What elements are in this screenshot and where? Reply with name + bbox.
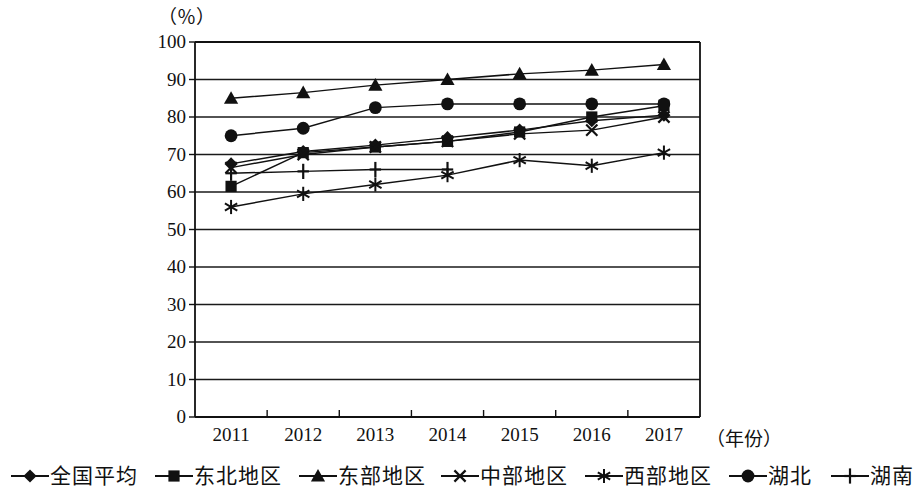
legend-marker-square-icon <box>154 466 194 486</box>
legend-label: 西部地区 <box>624 466 712 487</box>
x-axis-tick-2011: 2011 <box>196 425 266 444</box>
data-point-circle <box>742 470 755 483</box>
chart-canvas <box>0 0 907 455</box>
x-axis-tick-2015: 2015 <box>485 425 555 444</box>
x-axis-title: （年份） <box>706 424 782 451</box>
data-point-circle <box>513 97 526 110</box>
legend-label: 东北地区 <box>194 466 282 487</box>
legend-label: 全国平均 <box>50 466 138 487</box>
legend-item-7[interactable]: 湖南 <box>830 466 914 487</box>
x-axis-tick-2017: 2017 <box>629 425 699 444</box>
legend-marker-triangle-icon <box>298 466 338 486</box>
x-axis-tick-2013: 2013 <box>340 425 410 444</box>
legend-label: 中部地区 <box>480 466 568 487</box>
y-axis-tick-20: 20 <box>140 332 186 351</box>
data-point-square <box>298 147 309 158</box>
legend-item-1[interactable]: 全国平均 <box>10 466 138 487</box>
data-point-plus <box>298 164 309 179</box>
series-5 <box>225 146 670 215</box>
legend-marker-asterisk-icon <box>584 466 624 486</box>
y-axis-tick-80: 80 <box>140 107 186 126</box>
data-point-asterisk <box>658 146 670 160</box>
y-axis-tick-0: 0 <box>140 407 186 426</box>
x-axis-tick-2012: 2012 <box>268 425 338 444</box>
legend-marker-plus-icon <box>830 466 870 486</box>
data-point-triangle <box>657 57 671 70</box>
y-axis-tick-50: 50 <box>140 220 186 239</box>
y-axis-tick-30: 30 <box>140 295 186 314</box>
series-7 <box>225 162 453 181</box>
y-axis-tick-100: 100 <box>140 32 186 51</box>
data-point-asterisk <box>225 200 237 214</box>
legend-marker-circle-icon <box>728 466 768 486</box>
x-axis-tick-2016: 2016 <box>557 425 627 444</box>
x-axis-tick-2014: 2014 <box>413 425 483 444</box>
series-3 <box>224 57 671 103</box>
gridlines <box>195 42 700 380</box>
data-point-circle <box>658 97 671 110</box>
legend-label: 湖南 <box>870 466 914 487</box>
legend-item-2[interactable]: 东北地区 <box>154 466 282 487</box>
chart-plot-area: （％） 0102030405060708090100 2011201220132… <box>0 0 907 455</box>
data-point-plus <box>844 468 855 483</box>
data-point-square <box>168 470 179 481</box>
legend-item-6[interactable]: 湖北 <box>728 466 812 487</box>
data-point-diamond <box>23 469 36 482</box>
legend-marker-diamond-icon <box>10 466 50 486</box>
chart-legend: 全国平均东北地区东部地区中部地区西部地区湖北湖南 <box>0 458 907 494</box>
data-point-circle <box>297 122 310 135</box>
y-axis-tick-90: 90 <box>140 70 186 89</box>
data-point-circle <box>369 101 382 114</box>
data-point-circle <box>585 97 598 110</box>
data-point-square <box>586 111 597 122</box>
legend-item-5[interactable]: 西部地区 <box>584 466 712 487</box>
data-point-plus <box>225 166 236 181</box>
data-point-circle <box>225 129 238 142</box>
legend-label: 东部地区 <box>338 466 426 487</box>
data-point-circle <box>441 97 454 110</box>
legend-label: 湖北 <box>768 466 812 487</box>
y-axis-tick-70: 70 <box>140 145 186 164</box>
y-axis-tick-60: 60 <box>140 182 186 201</box>
data-point-plus <box>370 162 381 177</box>
chart-series-layer <box>224 57 671 214</box>
legend-item-4[interactable]: 中部地区 <box>440 466 568 487</box>
legend-marker-cross-icon <box>440 466 480 486</box>
y-axis-tick-10: 10 <box>140 370 186 389</box>
y-axis-tick-40: 40 <box>140 257 186 276</box>
legend-item-3[interactable]: 东部地区 <box>298 466 426 487</box>
data-point-square <box>514 126 525 137</box>
data-point-square <box>225 181 236 192</box>
